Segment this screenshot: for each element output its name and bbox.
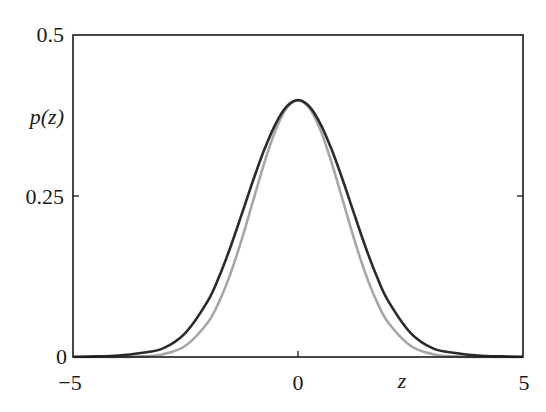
ticks	[73, 196, 523, 357]
x-tick-label-mid: 0	[293, 370, 304, 395]
plot-curves	[73, 100, 523, 357]
y-axis-label: p(z)	[28, 104, 64, 129]
y-tick-label-bottom: 0	[56, 344, 67, 369]
dark-curve	[73, 100, 523, 357]
y-tick-label-mid: 0.25	[26, 184, 65, 209]
x-tick-label-right: 5	[519, 370, 530, 395]
gray-curve	[73, 100, 523, 357]
x-tick-label-left: −5	[58, 370, 81, 395]
axes-frame	[73, 35, 523, 357]
x-axis-label: z	[397, 368, 407, 393]
y-tick-label-top: 0.5	[37, 22, 65, 47]
chart-canvas: 0.5 0.25 0 p(z) −5 0 5 z	[0, 0, 546, 412]
